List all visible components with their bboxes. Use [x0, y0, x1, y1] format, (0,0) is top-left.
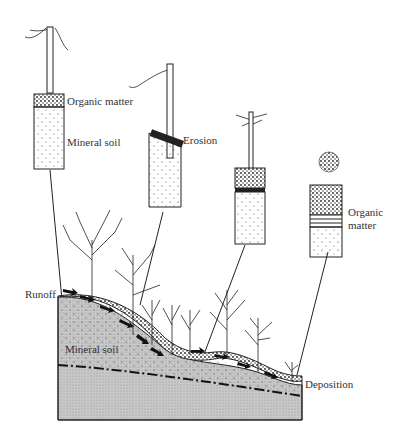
band-layer: [310, 215, 342, 227]
label-mineral-soil-2: Mineral soil: [65, 343, 118, 355]
label-organic-matter-1: Organic matter: [67, 95, 133, 107]
label-runoff: Runoff: [25, 288, 56, 300]
soil-diagram: [0, 0, 400, 427]
band-layer: [235, 188, 265, 192]
label-erosion: Erosion: [183, 134, 217, 146]
mineral-layer: [310, 227, 342, 257]
label-organic-matter-2b: matter: [348, 219, 376, 231]
core-3: [235, 112, 267, 244]
trunk-icon: [249, 112, 253, 170]
organic-layer: [34, 94, 64, 107]
shrub-icon: [319, 152, 339, 172]
core-4: [310, 152, 342, 257]
tree-icon: [181, 310, 200, 355]
label-organic-matter-2a: Organic: [348, 206, 383, 218]
core-2: [129, 64, 184, 207]
label-mineral-soil-1: Mineral soil: [67, 136, 120, 148]
cross-section: [58, 295, 302, 420]
organic-layer: [310, 185, 342, 215]
branch-icon: [129, 70, 168, 88]
label-deposition: Deposition: [305, 378, 353, 390]
mineral-layer: [34, 107, 64, 169]
tree-icon: [63, 210, 122, 300]
core-1: [25, 27, 68, 169]
mineral-layer: [235, 192, 265, 244]
organic-layer: [235, 168, 265, 188]
trunk-icon: [47, 27, 53, 93]
